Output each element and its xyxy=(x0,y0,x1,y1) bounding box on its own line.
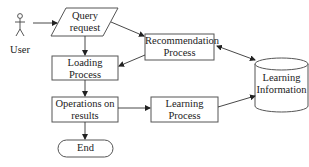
edge-recommendation-to-loading xyxy=(119,55,145,66)
end-label-text: End xyxy=(58,142,113,154)
learning-process-label-line1: Learning xyxy=(151,98,218,110)
operations-label-line2: results xyxy=(52,110,118,122)
learning-process-label-line2: Process xyxy=(151,110,218,122)
edge-learning-to-info xyxy=(218,96,255,107)
loading-process-label: Loading Process xyxy=(52,57,118,81)
loading-label-line1: Loading xyxy=(52,57,118,69)
flow-diagram: User Query request Recommendation Proces… xyxy=(0,0,309,167)
recommendation-label-line1: Recommendation xyxy=(145,35,214,47)
learning-information-label: Learning Information xyxy=(255,72,308,96)
recommendation-label-line2: Process xyxy=(145,47,214,59)
learning-info-label-line2: Information xyxy=(255,84,308,96)
edge-query-to-recommendation xyxy=(111,22,144,36)
operations-label-line1: Operations on xyxy=(52,98,118,110)
recommendation-process-label: Recommendation Process xyxy=(145,35,214,59)
end-label: End xyxy=(58,142,113,154)
operations-on-results-label: Operations on results xyxy=(52,98,118,122)
query-label-line2: request xyxy=(56,22,114,34)
user-actor-icon xyxy=(15,14,25,36)
user-label: User xyxy=(6,44,34,56)
learning-info-label-line1: Learning xyxy=(255,72,308,84)
query-label-line1: Query xyxy=(56,10,114,22)
learning-process-label: Learning Process xyxy=(151,98,218,122)
query-request-label: Query request xyxy=(56,10,114,34)
loading-label-line2: Process xyxy=(52,69,118,81)
edge-recommendation-learning-info xyxy=(217,46,255,60)
user-label-text: User xyxy=(6,44,34,56)
